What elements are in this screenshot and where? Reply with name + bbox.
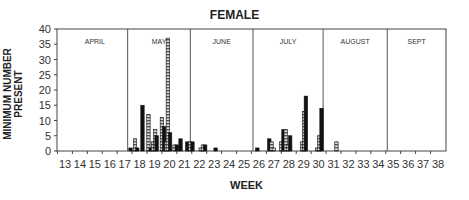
x-tick-label: 13 <box>59 158 71 170</box>
x-tick-label: 17 <box>119 158 131 170</box>
x-tick-label: 24 <box>223 158 235 170</box>
data-bar <box>272 148 275 151</box>
data-bar <box>335 142 338 151</box>
x-tick-label: 27 <box>268 158 280 170</box>
data-bar <box>141 105 144 151</box>
data-bar <box>191 142 194 151</box>
x-tick-label: 14 <box>74 158 86 170</box>
data-bar <box>179 139 182 151</box>
y-tick-label: 40 <box>39 23 51 35</box>
month-label: MAY <box>152 38 167 45</box>
x-tick-label: 38 <box>432 158 444 170</box>
y-tick-label: 20 <box>39 84 51 96</box>
x-tick-label: 16 <box>104 158 116 170</box>
data-bar <box>155 136 158 151</box>
x-tick-label: 28 <box>283 158 295 170</box>
month-label: APRIL <box>85 38 105 45</box>
x-tick-label: 32 <box>342 158 354 170</box>
data-bar <box>136 148 139 151</box>
month-label: SEPT <box>407 38 426 45</box>
x-tick-label: 19 <box>148 158 160 170</box>
x-tick-label: 21 <box>178 158 190 170</box>
month-label: AUGUST <box>341 38 371 45</box>
y-tick-label: 10 <box>39 115 51 127</box>
data-bar <box>320 108 323 151</box>
x-tick-label: 37 <box>417 158 429 170</box>
y-tick-label: 15 <box>39 99 51 111</box>
y-tick-label: 5 <box>45 130 51 142</box>
bar-chart: APRILMAYJUNEJULYAUGUSTSEPT05101520253035… <box>0 0 469 200</box>
x-tick-label: 25 <box>238 158 250 170</box>
x-tick-label: 36 <box>402 158 414 170</box>
y-tick-label: 30 <box>39 54 51 66</box>
y-tick-label: 0 <box>45 145 51 157</box>
x-tick-label: 34 <box>372 158 384 170</box>
x-tick-label: 35 <box>387 158 399 170</box>
data-bar <box>203 145 206 151</box>
x-tick-label: 15 <box>89 158 101 170</box>
x-tick-label: 18 <box>133 158 145 170</box>
month-label: JUNE <box>213 38 232 45</box>
x-tick-label: 33 <box>357 158 369 170</box>
y-tick-label: 35 <box>39 38 51 50</box>
x-tick-label: 29 <box>298 158 310 170</box>
data-bar <box>214 148 217 151</box>
data-bar <box>168 133 171 151</box>
data-bar <box>288 136 291 151</box>
data-bar <box>129 148 132 151</box>
data-bar <box>147 114 150 151</box>
month-label: JULY <box>280 38 297 45</box>
x-tick-label: 23 <box>208 158 220 170</box>
data-bar <box>256 148 259 151</box>
y-tick-label: 25 <box>39 69 51 81</box>
x-tick-label: 31 <box>327 158 339 170</box>
x-tick-label: 30 <box>313 158 325 170</box>
x-tick-label: 20 <box>163 158 175 170</box>
data-bar <box>175 145 178 151</box>
x-tick-label: 26 <box>253 158 265 170</box>
data-bar <box>304 96 307 151</box>
x-tick-label: 22 <box>193 158 205 170</box>
